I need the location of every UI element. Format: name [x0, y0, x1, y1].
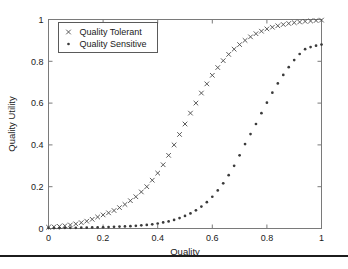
- data-point: [199, 91, 204, 96]
- data-point: [254, 31, 259, 36]
- data-point: [167, 220, 170, 223]
- data-point: [183, 122, 188, 127]
- data-point: [293, 59, 296, 62]
- data-point: [172, 143, 177, 148]
- data-point: [315, 44, 318, 47]
- data-point: [79, 220, 84, 225]
- data-point: [85, 226, 88, 229]
- data-point: [150, 178, 155, 183]
- data-point: [259, 29, 264, 34]
- data-point: [177, 132, 182, 137]
- legend-label: Quality Tolerant: [80, 27, 143, 37]
- data-point: [91, 226, 94, 229]
- data-point: [215, 65, 220, 70]
- series-2: [47, 43, 323, 229]
- data-point: [237, 42, 242, 47]
- data-point: [84, 219, 89, 224]
- x-tick-label: 1: [319, 233, 324, 243]
- x-axis: 00.20.40.60.81Quality: [46, 20, 324, 257]
- bottom-divider-rule: [0, 255, 348, 257]
- data-point: [216, 189, 219, 192]
- data-point: [161, 162, 166, 167]
- data-point: [297, 20, 302, 25]
- legend: Quality TolerantQuality Sensitive: [59, 23, 158, 53]
- quality-utility-chart: 00.20.40.60.81Quality00.20.40.60.81Quali…: [0, 0, 348, 269]
- data-point: [255, 123, 258, 126]
- data-point: [124, 225, 127, 228]
- data-point: [80, 226, 83, 229]
- data-point: [64, 227, 67, 230]
- data-point: [188, 111, 193, 116]
- data-point: [211, 195, 214, 198]
- data-point: [238, 154, 241, 157]
- x-tick-label: 0.6: [206, 233, 219, 243]
- data-point: [106, 211, 111, 216]
- data-point: [205, 82, 210, 87]
- y-tick-label: 0.8: [31, 57, 44, 67]
- data-point: [281, 22, 286, 27]
- data-point: [221, 58, 226, 63]
- data-point: [314, 18, 319, 23]
- data-point: [292, 20, 297, 25]
- data-point: [74, 227, 77, 230]
- data-point: [173, 219, 176, 222]
- data-point: [222, 182, 225, 185]
- data-point: [178, 217, 181, 220]
- data-point: [69, 227, 72, 230]
- data-point: [74, 222, 79, 227]
- data-point: [298, 53, 301, 56]
- data-point: [145, 224, 148, 227]
- data-point: [112, 208, 117, 213]
- data-point: [276, 82, 279, 85]
- data-point: [144, 184, 149, 189]
- x-tick-label: 0: [46, 233, 51, 243]
- data-point: [276, 23, 281, 28]
- data-point: [156, 222, 159, 225]
- data-point: [107, 226, 110, 229]
- data-point: [304, 48, 307, 51]
- data-point: [265, 27, 270, 32]
- data-point: [135, 224, 138, 227]
- data-point: [134, 194, 139, 199]
- data-point: [140, 224, 143, 227]
- data-point: [210, 73, 215, 78]
- x-tick-label: 0.2: [97, 233, 110, 243]
- data-point: [260, 112, 263, 115]
- data-point: [320, 43, 323, 46]
- data-point: [96, 226, 99, 229]
- data-point: [282, 74, 285, 77]
- data-point: [139, 190, 144, 195]
- data-point: [266, 101, 269, 104]
- data-point: [200, 205, 203, 208]
- data-point: [287, 66, 290, 69]
- data-point: [226, 52, 231, 57]
- data-point: [129, 225, 132, 228]
- data-point: [58, 227, 61, 230]
- data-point: [286, 21, 291, 26]
- data-point: [162, 221, 165, 224]
- data-point: [189, 212, 192, 215]
- data-point: [166, 153, 171, 158]
- data-point: [102, 226, 105, 229]
- data-point: [128, 198, 133, 203]
- data-point: [123, 202, 128, 207]
- data-point: [248, 35, 253, 40]
- data-point: [95, 215, 100, 220]
- legend-label: Quality Sensitive: [80, 39, 147, 49]
- x-tick-label: 0.8: [261, 233, 274, 243]
- y-tick-label: 0.2: [31, 182, 44, 192]
- data-point: [118, 225, 121, 228]
- y-tick-label: 0: [38, 224, 43, 234]
- data-point: [117, 205, 122, 210]
- y-tick-label: 0.6: [31, 98, 44, 108]
- data-point: [194, 101, 199, 106]
- data-point: [184, 215, 187, 218]
- data-point: [47, 227, 50, 230]
- data-point: [227, 174, 230, 177]
- data-point: [244, 143, 247, 146]
- data-point: [233, 164, 236, 167]
- data-point: [101, 213, 106, 218]
- data-point: [249, 133, 252, 136]
- data-point: [205, 201, 208, 204]
- data-point: [270, 25, 275, 30]
